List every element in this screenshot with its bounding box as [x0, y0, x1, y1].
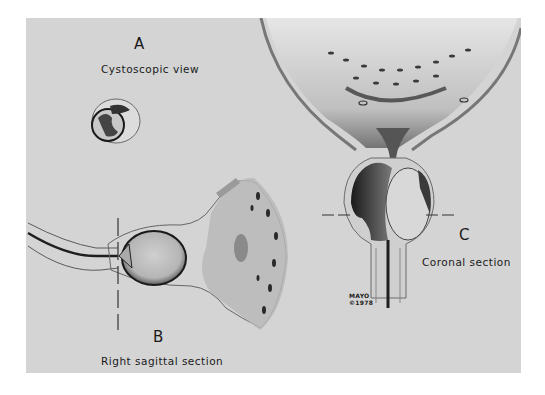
- panel-b-caption: Right sagittal section: [101, 355, 223, 367]
- cystoscopic-view-figure: [92, 99, 140, 143]
- signature-line2: ©1978: [349, 299, 373, 306]
- illustration-panel: A Cystoscopic view B Right sagittal sect…: [26, 18, 521, 373]
- sagittal-section-figure: [28, 178, 288, 330]
- signature-line1: MAYO: [349, 292, 373, 299]
- panel-a-letter: A: [134, 35, 145, 53]
- signature: MAYO ©1978: [349, 292, 373, 306]
- panel-c-letter: C: [459, 226, 470, 244]
- panel-b-letter: B: [153, 328, 164, 346]
- panel-c-caption: Coronal section: [422, 256, 511, 268]
- panel-a-caption: Cystoscopic view: [101, 63, 199, 75]
